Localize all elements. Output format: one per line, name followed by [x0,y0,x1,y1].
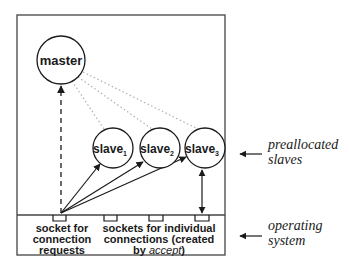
preallocated-caption: preallocated slaves [267,137,339,167]
socket-1 [104,215,117,221]
dotted-link-1 [72,81,104,129]
socket-listen-caption: socket for connection requests [33,222,92,256]
svg-text:preallocated: preallocated [267,137,339,152]
socket-3 [195,215,209,221]
diagram-canvas: master slave1 slave2 slave3 socket for c… [0,0,349,268]
socket-listen [53,215,66,221]
arrow-slave-2 [61,162,143,213]
svg-text:requests: requests [39,244,85,256]
os-caption: operating system [268,218,322,248]
slave-1-label: slave1 [93,142,127,157]
socket-individual-caption: sockets for individual connections (crea… [102,222,215,256]
arrow-slave-1 [61,164,100,213]
svg-text:slaves: slaves [268,152,303,167]
svg-text:operating: operating [268,218,322,233]
svg-text:by accept): by accept) [133,244,185,256]
master-label: master [40,53,83,68]
svg-text:system: system [268,233,305,248]
dotted-link-2 [78,77,152,129]
slave-2-label: slave2 [140,142,174,157]
socket-2 [149,215,163,221]
slave-3-label: slave3 [185,142,219,157]
